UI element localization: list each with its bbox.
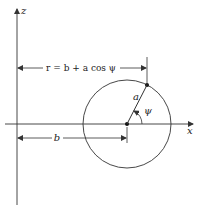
torus-cross-section-diagram: z x a ψ r = b + a cos ψ b <box>0 0 198 214</box>
psi-label: ψ <box>144 105 152 116</box>
radius-a-label: a <box>133 91 139 102</box>
b-label: b <box>54 132 60 143</box>
z-axis-label: z <box>20 5 27 16</box>
x-axis-label: x <box>187 125 193 136</box>
psi-angle-arc <box>134 111 142 124</box>
r-equation-label: r = b + a cos ψ <box>46 63 116 73</box>
